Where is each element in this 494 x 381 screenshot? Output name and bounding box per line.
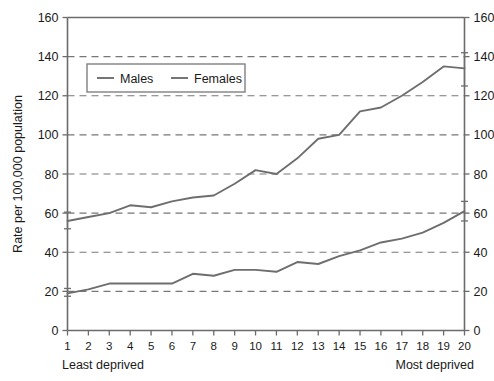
x-tick-label: 3: [106, 340, 112, 352]
y-tick-label-left: 80: [45, 168, 59, 182]
x-tick-label: 5: [148, 340, 154, 352]
line-chart: 020406080100120140160 020406080100120140…: [0, 0, 494, 381]
y-tick-label-right: 40: [474, 246, 488, 260]
y-tick-label-left: 20: [45, 285, 59, 299]
x-tick-label: 14: [333, 340, 346, 352]
x-tick-label: 19: [437, 340, 450, 352]
y-tick-label-right: 0: [474, 324, 481, 338]
x-tick-label: 15: [354, 340, 367, 352]
most-deprived-label: Most deprived: [395, 358, 474, 372]
y-tick-label-left: 60: [45, 207, 59, 221]
x-tick-label: 17: [395, 340, 408, 352]
chart-container: 020406080100120140160 020406080100120140…: [0, 0, 494, 381]
x-tick-label: 9: [231, 340, 237, 352]
x-tick-label: 20: [458, 340, 471, 352]
x-axis-end-labels: Least deprived Most deprived: [62, 358, 474, 372]
y-axis-right-ticks: 020406080100120140160: [465, 11, 494, 338]
y-tick-label-left: 0: [52, 324, 59, 338]
x-tick-label: 4: [127, 340, 134, 352]
y-tick-label-right: 20: [474, 285, 488, 299]
error-bar-males-x20: [461, 53, 468, 86]
y-tick-label-left: 120: [38, 89, 59, 103]
y-tick-label-left: 140: [38, 50, 59, 64]
x-tick-label: 1: [64, 340, 70, 352]
x-tick-label: 8: [211, 340, 217, 352]
y-axis-title-text: Rate per 100,000 population: [11, 95, 25, 253]
legend: MalesFemales: [87, 64, 245, 92]
least-deprived-label: Least deprived: [62, 358, 144, 372]
x-tick-label: 10: [249, 340, 262, 352]
x-tick-label: 2: [85, 340, 91, 352]
y-tick-label-right: 120: [474, 89, 494, 103]
x-tick-label: 7: [190, 340, 196, 352]
x-tick-label: 18: [416, 340, 429, 352]
x-axis-ticks: 1234567891011121314151617181920: [64, 331, 471, 352]
y-tick-label-left: 100: [38, 128, 59, 142]
x-tick-label: 6: [169, 340, 175, 352]
x-tick-label: 16: [375, 340, 388, 352]
y-tick-label-right: 80: [474, 168, 488, 182]
x-tick-label: 12: [291, 340, 304, 352]
legend-label-males: Males: [120, 72, 153, 86]
y-axis-left-ticks: 020406080100120140160: [38, 11, 68, 338]
x-tick-label: 11: [270, 340, 282, 352]
y-tick-label-right: 160: [474, 11, 494, 25]
series-lines: [68, 66, 465, 293]
y-tick-label-left: 160: [38, 11, 59, 25]
error-bar-females-x20: [461, 201, 468, 221]
y-axis-title: Rate per 100,000 population: [11, 95, 25, 253]
y-tick-label-left: 40: [45, 246, 59, 260]
y-tick-label-right: 140: [474, 50, 494, 64]
y-tick-label-right: 60: [474, 207, 488, 221]
y-tick-label-right: 100: [474, 128, 494, 142]
x-tick-label: 13: [312, 340, 325, 352]
legend-label-females: Females: [194, 72, 242, 86]
